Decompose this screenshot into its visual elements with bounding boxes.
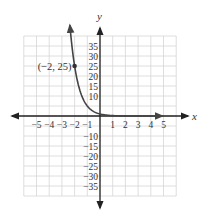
y-tick-label: 10 xyxy=(89,92,99,102)
y-tick-label: −30 xyxy=(83,172,98,182)
y-tick-label: 35 xyxy=(89,42,99,52)
y-tick-label: −20 xyxy=(83,152,98,162)
exponential-curve xyxy=(70,25,162,116)
y-tick-label: 25 xyxy=(89,62,99,72)
point-label: (−2, 25) xyxy=(38,61,72,73)
y-tick-label: −25 xyxy=(83,162,98,172)
exponential-graph: −5−4−3−2−112345353025201510−10−15−20−25−… xyxy=(0,0,206,215)
annotations: (−2, 25) xyxy=(38,61,77,73)
point-marker xyxy=(72,64,77,69)
x-tick-label: 2 xyxy=(123,120,128,130)
y-tick-label: −35 xyxy=(83,182,98,192)
y-tick-label: 30 xyxy=(89,52,99,62)
x-tick-label: −4 xyxy=(44,120,54,130)
axes xyxy=(12,28,188,208)
x-tick-label: 3 xyxy=(136,120,141,130)
y-axis-label: y xyxy=(96,10,102,22)
y-tick-label: 20 xyxy=(89,72,99,82)
x-tick-label: −5 xyxy=(31,120,41,130)
x-tick-label: 4 xyxy=(148,120,153,130)
y-tick-label: 15 xyxy=(89,82,99,92)
x-axis-label: x xyxy=(191,110,197,122)
x-tick-label: −1 xyxy=(82,120,92,130)
y-tick-label: −10 xyxy=(83,132,98,142)
x-tick-label: 1 xyxy=(110,120,115,130)
x-tick-label: −2 xyxy=(70,120,80,130)
x-tick-label: −3 xyxy=(57,120,67,130)
curve xyxy=(70,25,162,116)
y-tick-label: −15 xyxy=(83,142,98,152)
x-tick-label: 5 xyxy=(161,120,166,130)
